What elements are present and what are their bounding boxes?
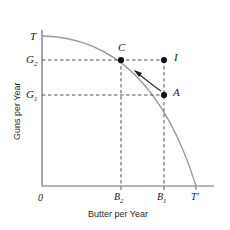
ppf-figure: T G2 G1 C I A 0 B2 B1 T' Guns per Year B… <box>0 0 230 230</box>
y-tick-label-G2-text: G <box>26 53 34 65</box>
x-axis-title-text: Butter per Year <box>88 209 148 219</box>
y-tick-label-G1-sub: 1 <box>34 95 38 103</box>
y-tick-label-G1-text: G <box>26 88 34 100</box>
point-I-marker <box>161 57 167 63</box>
x-tick-label-Tprime: T' <box>191 192 199 202</box>
x-tick-label-B2-sub: 2 <box>120 197 124 205</box>
point-label-I-text: I <box>174 51 178 63</box>
point-label-C: C <box>118 42 125 53</box>
y-tick-label-T: T <box>30 31 36 42</box>
x-tick-label-B1: B1 <box>157 192 167 205</box>
origin-label: 0 <box>38 193 43 203</box>
point-label-A: A <box>173 87 180 98</box>
x-tick-label-B2: B2 <box>114 192 124 205</box>
origin-label-text: 0 <box>38 192 43 203</box>
y-tick-label-G1: G1 <box>26 89 37 103</box>
y-tick-label-G2: G2 <box>26 54 37 68</box>
y-axis-title-text: Guns per Year <box>12 82 22 140</box>
point-label-A-text: A <box>173 86 180 98</box>
point-label-C-text: C <box>118 41 125 53</box>
y-tick-label-G2-sub: 2 <box>34 60 38 68</box>
y-tick-label-T-text: T <box>30 30 36 42</box>
point-label-I: I <box>174 52 178 63</box>
x-tick-label-Tprime-text: T' <box>191 191 199 202</box>
point-C-marker <box>118 57 124 63</box>
y-axis-title: Guns per Year <box>13 82 22 140</box>
point-A-marker <box>161 92 167 98</box>
x-tick-label-B1-sub: 1 <box>163 197 167 205</box>
x-axis-title: Butter per Year <box>88 210 148 219</box>
